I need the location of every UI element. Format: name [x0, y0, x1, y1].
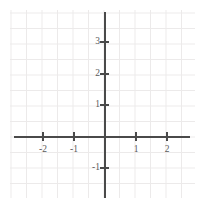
y-tick-2 — [100, 73, 109, 75]
x-tick-label-minus-1: -1 — [70, 145, 78, 155]
y-tick-label-minus-1: -1 — [92, 163, 100, 173]
x-axis-line — [14, 136, 190, 138]
coordinate-plane: -2 -1 1 2 3 2 1 -1 — [0, 0, 211, 207]
y-tick-label-2: 2 — [95, 69, 100, 79]
x-tick-label-minus-2: -2 — [39, 145, 47, 155]
x-tick-label-2: 2 — [165, 145, 170, 155]
y-tick-minus-1 — [100, 167, 109, 169]
x-tick-1 — [135, 132, 137, 141]
y-tick-label-1: 1 — [95, 100, 100, 110]
x-tick-label-1: 1 — [134, 145, 139, 155]
y-tick-3 — [100, 41, 109, 43]
y-tick-label-3: 3 — [95, 37, 100, 47]
x-tick-minus-1 — [73, 132, 75, 141]
y-tick-1 — [100, 104, 109, 106]
x-tick-2 — [166, 132, 168, 141]
x-tick-minus-2 — [42, 132, 44, 141]
